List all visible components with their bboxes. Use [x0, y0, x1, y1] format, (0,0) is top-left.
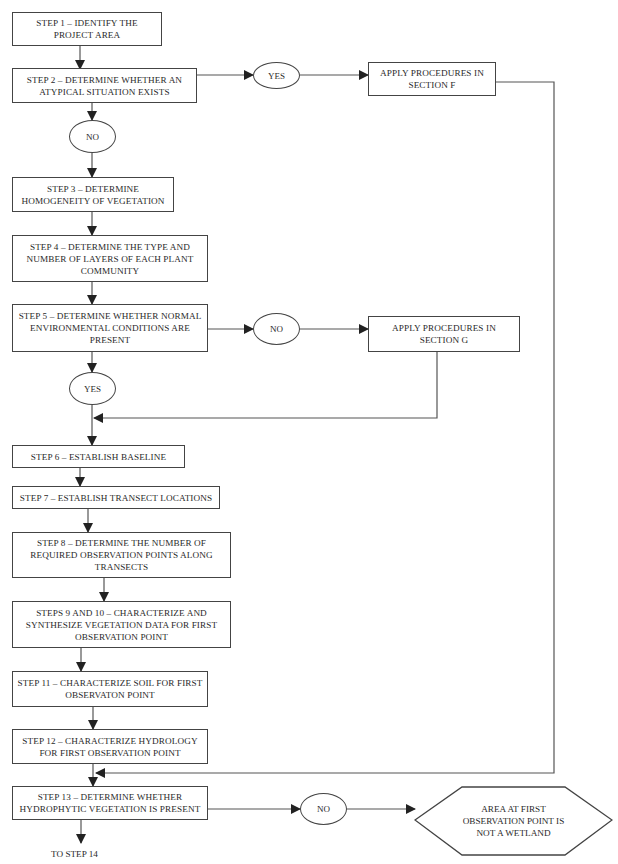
section-g-label: APPLY PROCEDURES IN SECTION G — [373, 322, 515, 346]
step-3-label: STEP 3 – DETERMINE HOMOGENEITY OF VEGETA… — [17, 183, 169, 207]
step-2-no-decision: NO — [69, 120, 116, 153]
section-f-box: APPLY PROCEDURES IN SECTION F — [368, 62, 496, 96]
step-5-yes-decision: YES — [69, 372, 116, 405]
step-1-box: STEP 1 – IDENTIFY THE PROJECT AREA — [12, 12, 162, 46]
step-12-box: STEP 12 – CHARACTERIZE HYDROLOGY FOR FIR… — [12, 729, 208, 764]
step-5-no-decision: NO — [253, 313, 300, 345]
step-4-box: STEP 4 – DETERMINE THE TYPE AND NUMBER O… — [12, 235, 208, 282]
section-f-label: APPLY PROCEDURES IN SECTION F — [373, 67, 491, 91]
step-5-label: STEP 5 – DETERMINE WHETHER NORMAL ENVIRO… — [17, 310, 203, 346]
step-5-box: STEP 5 – DETERMINE WHETHER NORMAL ENVIRO… — [12, 304, 208, 352]
step-2-no-label: NO — [86, 132, 99, 142]
step-3-box: STEP 3 – DETERMINE HOMOGENEITY OF VEGETA… — [12, 177, 174, 212]
step-8-label: STEP 8 – DETERMINE THE NUMBER OF REQUIRE… — [17, 537, 226, 573]
step-1-label: STEP 1 – IDENTIFY THE PROJECT AREA — [17, 17, 157, 41]
step-5-no-label: NO — [270, 324, 283, 334]
steps-9-10-box: STEPS 9 AND 10 – CHARACTERIZE AND SYNTHE… — [12, 601, 231, 648]
step-6-box: STEP 6 – ESTABLISH BASELINE — [12, 445, 185, 468]
step-13-no-decision: NO — [300, 793, 347, 825]
step-13-label: STEP 13 – DETERMINE WHETHER HYDROPHYTIC … — [17, 791, 203, 815]
step-13-no-label: NO — [317, 804, 330, 814]
step-12-label: STEP 12 – CHARACTERIZE HYDROLOGY FOR FIR… — [17, 735, 203, 759]
step-11-box: STEP 11 – CHARACTERIZE SOIL FOR FIRST OB… — [12, 671, 208, 707]
step-13-box: STEP 13 – DETERMINE WHETHER HYDROPHYTIC … — [12, 786, 208, 820]
step-7-label: STEP 7 – ESTABLISH TRANSECT LOCATIONS — [20, 492, 212, 504]
not-wetland-label: AREA AT FIRST OBSERVATION POINT IS NOT A… — [459, 803, 569, 839]
step-5-yes-label: YES — [84, 384, 101, 394]
step-2-box: STEP 2 – DETERMINE WHETHER AN ATYPICAL S… — [12, 68, 197, 103]
to-step-14-label: TO STEP 14 — [51, 849, 98, 859]
step-7-box: STEP 7 – ESTABLISH TRANSECT LOCATIONS — [12, 486, 220, 509]
step-2-yes-decision: YES — [253, 62, 300, 89]
step-6-label: STEP 6 – ESTABLISH BASELINE — [31, 451, 166, 463]
step-2-label: STEP 2 – DETERMINE WHETHER AN ATYPICAL S… — [17, 74, 192, 98]
step-2-yes-label: YES — [268, 71, 285, 81]
steps-9-10-label: STEPS 9 AND 10 – CHARACTERIZE AND SYNTHE… — [17, 607, 226, 643]
not-wetland-terminal: AREA AT FIRST OBSERVATION POINT IS NOT A… — [414, 786, 613, 856]
step-4-label: STEP 4 – DETERMINE THE TYPE AND NUMBER O… — [17, 241, 203, 277]
step-11-label: STEP 11 – CHARACTERIZE SOIL FOR FIRST OB… — [17, 677, 203, 701]
section-g-box: APPLY PROCEDURES IN SECTION G — [368, 316, 520, 352]
step-8-box: STEP 8 – DETERMINE THE NUMBER OF REQUIRE… — [12, 532, 231, 578]
